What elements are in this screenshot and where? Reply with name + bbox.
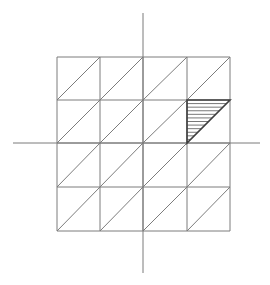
shaded-triangle [187, 100, 230, 143]
cell-diagonal [57, 57, 100, 100]
cell-diagonal [100, 57, 143, 100]
cell-diagonal [143, 57, 187, 100]
grid-diagram [0, 0, 270, 285]
cell-diagonal [143, 100, 187, 143]
cell-diagonal [100, 187, 143, 231]
cell-diagonal [57, 187, 100, 231]
cell-diagonal [57, 143, 100, 187]
cell-diagonal [187, 57, 230, 100]
cell-diagonal [100, 143, 143, 187]
cell-diagonal [143, 187, 187, 231]
cell-diagonal [187, 187, 230, 231]
cell-diagonal [187, 143, 230, 187]
cell-diagonal [143, 143, 187, 187]
cell-diagonal [100, 100, 143, 143]
cell-diagonal [57, 100, 100, 143]
axes-group [13, 13, 260, 273]
